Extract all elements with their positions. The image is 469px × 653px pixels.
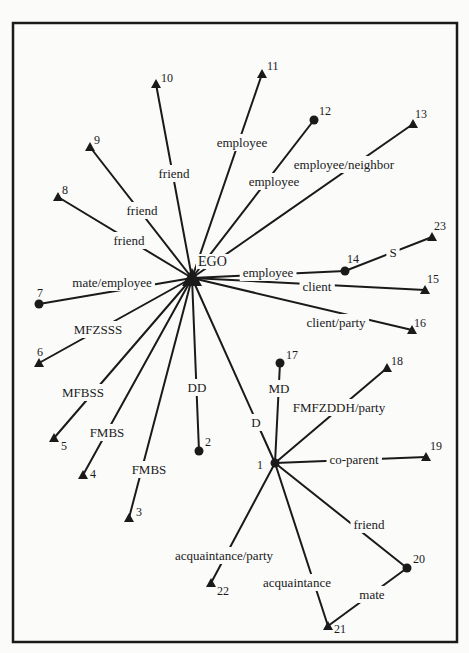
- triangle-node-icon: [206, 578, 216, 587]
- edge-label: FMBS: [90, 425, 125, 440]
- edge-label: acquaintance/party: [175, 548, 274, 563]
- edge-label: mate/employee: [72, 275, 152, 290]
- node-number-label: 21: [334, 622, 346, 636]
- node-number-label: 19: [430, 439, 442, 453]
- edge-label: mate: [359, 587, 384, 602]
- node-17: 17: [276, 348, 299, 368]
- node-number-label: 13: [415, 107, 427, 121]
- edge-1-20: [275, 463, 407, 568]
- node-19: 19: [421, 439, 442, 461]
- edge-label: FMFZDDH/party: [293, 400, 386, 415]
- node-5: 5: [49, 433, 67, 453]
- node-7: 7: [35, 286, 44, 309]
- node-number-label: 11: [267, 59, 279, 73]
- node-number-label: 1: [257, 458, 263, 472]
- edge-ego-2: [192, 278, 199, 451]
- edge-label: acquaintance: [263, 575, 331, 590]
- edge-label: FMBS: [132, 462, 167, 477]
- node-15: 15: [420, 272, 439, 294]
- edge-label: client: [303, 279, 332, 294]
- node-number-label: 6: [37, 345, 43, 359]
- node-number-label: 10: [161, 71, 173, 85]
- node-number-label: 9: [94, 133, 100, 147]
- node-number-label: 17: [286, 348, 298, 362]
- edge-label: D: [251, 415, 260, 430]
- edge-label: MFZSSS: [74, 322, 122, 337]
- node-20: 20: [403, 552, 426, 573]
- edge-label: friend: [126, 203, 158, 218]
- node-8: 8: [53, 183, 68, 201]
- edge-label: co-parent: [329, 452, 378, 467]
- node-number-label: 4: [90, 467, 96, 481]
- edges-layer: friendfriendfriendemployeeemployeeemploy…: [39, 74, 432, 626]
- node-number-label: 3: [136, 505, 142, 519]
- node-number-label: 14: [347, 252, 359, 266]
- node-number-label: 8: [62, 183, 68, 197]
- node-18: 18: [382, 354, 403, 372]
- node-22: 22: [206, 578, 229, 598]
- node-number-label: 12: [319, 104, 331, 118]
- circle-node-icon: [341, 267, 350, 276]
- node-16: 16: [407, 316, 426, 334]
- edge-label: S: [389, 245, 396, 260]
- circle-node-icon: [195, 447, 204, 456]
- node-9: 9: [85, 133, 100, 151]
- node-6: 6: [34, 345, 44, 367]
- edge-1-21: [275, 463, 328, 626]
- circle-node-icon: [276, 359, 285, 368]
- edge-1-17: [275, 363, 280, 463]
- edge-label: friend: [113, 233, 145, 248]
- triangle-node-icon: [257, 69, 267, 78]
- edge-label: employee: [249, 174, 300, 189]
- node-1: 1: [257, 458, 280, 472]
- triangle-node-icon: [427, 232, 437, 241]
- node-2: 2: [195, 435, 212, 456]
- edge-label: employee: [243, 265, 294, 280]
- edge-label: friend: [353, 517, 385, 532]
- node-number-label: 23: [434, 219, 446, 233]
- edge-label: MFBSS: [62, 385, 104, 400]
- edge-label: employee/neighbor: [294, 157, 395, 172]
- circle-node-icon: [271, 459, 280, 468]
- node-10: 10: [151, 71, 173, 88]
- ego-network-diagram: friendfriendfriendemployeeemployeeemploy…: [0, 0, 469, 653]
- triangle-node-icon: [151, 79, 161, 88]
- circle-node-icon: [403, 564, 412, 573]
- node-number-label: 22: [217, 584, 229, 598]
- triangle-node-icon: [34, 358, 44, 367]
- node-3: 3: [124, 505, 142, 522]
- node-number-label: 15: [427, 272, 439, 286]
- node-number-label: 20: [413, 552, 425, 566]
- edge-1-22: [211, 463, 275, 583]
- node-number-label: 18: [391, 354, 403, 368]
- node-number-label: 2: [205, 435, 211, 449]
- edge-label: employee: [217, 135, 268, 150]
- node-number-label: 16: [414, 316, 426, 330]
- node-13: 13: [408, 107, 427, 128]
- edge-label: DD: [188, 380, 207, 395]
- edge-label: MD: [269, 381, 290, 396]
- node-23: 23: [427, 219, 446, 241]
- node-number-label: 7: [37, 286, 43, 300]
- circle-node-icon: [310, 116, 319, 125]
- circle-node-icon: [35, 300, 44, 309]
- node-14: 14: [341, 252, 360, 276]
- node-11: 11: [257, 59, 279, 78]
- triangle-node-icon: [78, 470, 88, 479]
- node-12: 12: [310, 104, 332, 125]
- edge-label: friend: [158, 166, 190, 181]
- node-number-label: 5: [61, 439, 67, 453]
- triangle-node-icon: [124, 513, 134, 522]
- edge-label: client/party: [306, 315, 366, 330]
- ego-label: EGO: [198, 254, 227, 269]
